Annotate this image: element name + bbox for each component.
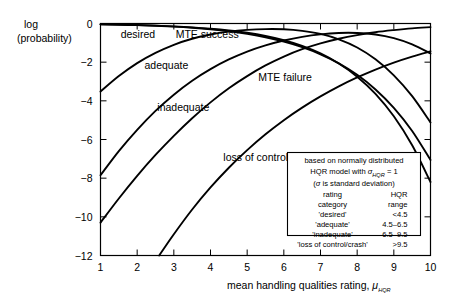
legend-line: rating — [323, 190, 342, 199]
x-tick-labels: 12345678910 — [98, 261, 437, 273]
legend-row-range: >9.5 — [393, 240, 408, 249]
x-tick-label: 8 — [354, 261, 360, 273]
y-axis-title-line2: (probability) — [17, 32, 72, 44]
y-axis-title-line1: log — [24, 18, 38, 30]
legend-row-category: 'inadequate' — [312, 230, 353, 239]
curve-label: MTE success — [176, 28, 239, 40]
legend-header-left-1: rating — [323, 190, 342, 199]
legend-line2-pre: HQR model with — [310, 167, 367, 176]
x-axis-title-main: mean handling qualities rating, — [227, 279, 372, 291]
x-tick-label: 3 — [171, 261, 177, 273]
y-tick-label: 0 — [87, 18, 93, 30]
legend-sigma-sub: HQR — [372, 172, 384, 178]
curve-label: desired — [121, 28, 156, 40]
legend-row-range: 6.5–9.5 — [382, 230, 407, 239]
y-tick-label: −2 — [81, 56, 93, 68]
y-tick-labels: 0−2−4−6−8−10−12 — [75, 18, 93, 262]
legend-line: category — [318, 200, 347, 209]
legend-header-right-2: range — [388, 200, 407, 209]
legend-row-category: 'desired' — [319, 210, 347, 219]
legend-line2-post: = 1 — [385, 167, 398, 176]
x-tick-label: 9 — [391, 261, 397, 273]
legend-line: 'loss of control/crash' — [297, 240, 368, 249]
legend-line: (σ is standard deviation) — [313, 179, 395, 188]
legend-line3-post: is standard deviation) — [320, 179, 395, 188]
x-tick-label: 4 — [208, 261, 214, 273]
y-tick-label: −12 — [75, 250, 93, 262]
x-tick-label: 1 — [98, 261, 104, 273]
legend-row-range: 4.5–6.5 — [382, 220, 407, 229]
legend-line: 'inadequate' — [312, 230, 353, 239]
legend-line1: based on normally distributed — [304, 156, 403, 165]
legend-line: 6.5–9.5 — [382, 230, 407, 239]
legend-header-right-1: HQR — [391, 190, 408, 199]
legend-header-left-2: category — [318, 200, 347, 209]
chart-figure: 0−2−4−6−8−10−12 12345678910 log (probabi… — [0, 0, 452, 305]
legend-line: 'desired' — [319, 210, 347, 219]
y-tick-label: −8 — [81, 172, 93, 184]
curve-label: inadequate — [157, 101, 209, 113]
x-tick-label: 7 — [318, 261, 324, 273]
x-tick-label: 2 — [134, 261, 140, 273]
legend-line: 'adequate' — [315, 220, 350, 229]
y-tick-label: −6 — [81, 134, 93, 146]
curve-label: MTE failure — [258, 71, 312, 83]
legend-line: range — [388, 200, 407, 209]
chart-svg: 0−2−4−6−8−10−12 12345678910 log (probabi… — [0, 0, 452, 305]
y-tick-label: −4 — [81, 95, 93, 107]
x-tick-label: 6 — [281, 261, 287, 273]
legend-row-range: <4.5 — [393, 210, 408, 219]
x-axis-title: mean handling qualities rating, μHQR — [227, 279, 391, 293]
curve-label: adequate — [145, 59, 189, 71]
x-tick-label: 5 — [244, 261, 250, 273]
legend-line: 4.5–6.5 — [382, 220, 407, 229]
legend-line: <4.5 — [393, 210, 408, 219]
x-tick-label: 10 — [425, 261, 437, 273]
legend-line: based on normally distributed — [304, 156, 403, 165]
legend-line: HQR — [391, 190, 408, 199]
legend-row-category: 'loss of control/crash' — [297, 240, 368, 249]
legend-line: >9.5 — [393, 240, 408, 249]
legend-row-category: 'adequate' — [315, 220, 350, 229]
y-tick-label: −10 — [75, 211, 93, 223]
x-axis-title-subscript: HQR — [378, 287, 390, 293]
